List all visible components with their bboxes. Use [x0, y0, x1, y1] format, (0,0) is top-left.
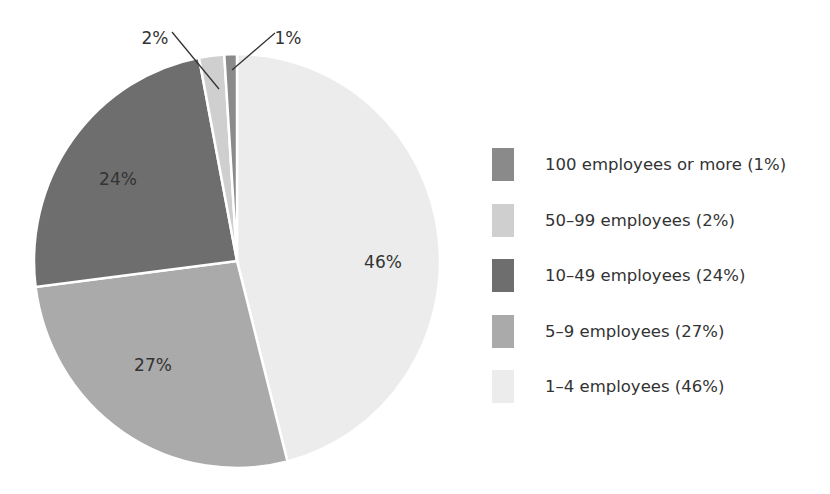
legend-label: 100 employees or more (1%) [545, 155, 786, 174]
legend-label: 5–9 employees (27%) [545, 322, 724, 341]
legend-swatch [492, 370, 514, 403]
legend-item: 10–49 employees (24%) [492, 248, 786, 304]
legend-item: 50–99 employees (2%) [492, 193, 786, 249]
legend-label: 10–49 employees (24%) [545, 266, 745, 285]
legend-swatch [492, 148, 514, 181]
legend-label: 1–4 employees (46%) [545, 377, 724, 396]
callout-label: 2% [142, 28, 169, 48]
slice-label: 46% [364, 252, 402, 272]
legend-item: 100 employees or more (1%) [492, 137, 786, 193]
callout-label: 1% [275, 28, 302, 48]
slice-label: 27% [134, 355, 172, 375]
legend-swatch [492, 204, 514, 237]
legend-label: 50–99 employees (2%) [545, 211, 735, 230]
legend-swatch [492, 315, 514, 348]
pie-chart: 46%27%24%2%1% [0, 0, 480, 494]
legend: 100 employees or more (1%) 50–99 employe… [492, 137, 786, 415]
slice-label: 24% [99, 169, 137, 189]
legend-swatch [492, 259, 514, 292]
legend-item: 1–4 employees (46%) [492, 359, 786, 415]
legend-item: 5–9 employees (27%) [492, 304, 786, 360]
